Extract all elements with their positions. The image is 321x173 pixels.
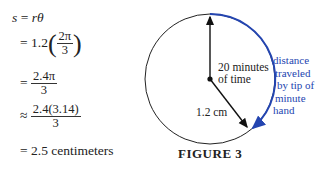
arc-label-line: distance xyxy=(273,54,314,67)
arc-label-line: by tip of xyxy=(273,79,314,92)
arc-label-line: hand xyxy=(273,104,314,117)
arc-label: distance traveled by tip of minute hand xyxy=(273,54,314,117)
arc-label-line: minute xyxy=(273,92,314,105)
figure-caption: FIGURE 3 xyxy=(178,146,242,162)
arc-label-line: traveled xyxy=(273,67,314,80)
radius-label: 1.2 cm xyxy=(196,106,227,118)
time-label-line-1: 20 minutes xyxy=(218,61,269,73)
center-dot xyxy=(207,76,212,81)
minute-hand-end xyxy=(210,79,247,127)
time-label: 20 minutes of time xyxy=(218,61,269,85)
time-label-line-2: of time xyxy=(218,73,269,85)
